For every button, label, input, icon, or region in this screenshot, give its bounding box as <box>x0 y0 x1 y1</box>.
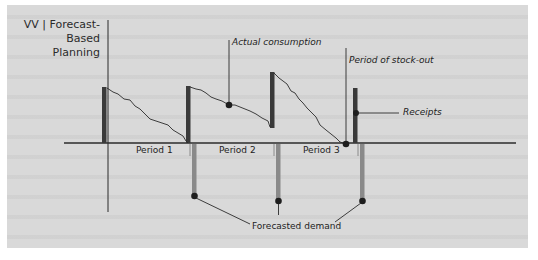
forecast-pointer-1 <box>196 198 250 224</box>
receipt-bar-3 <box>270 72 275 128</box>
receipt-bar-1 <box>102 87 107 143</box>
forecast-bar-2 <box>276 144 281 200</box>
stock-out-marker <box>343 141 350 148</box>
label-receipts: Receipts <box>403 107 442 117</box>
title-line-2: Planning <box>18 46 100 60</box>
diagram-title: VV | Forecast-Based Planning <box>18 18 100 60</box>
forecast-marker-2 <box>275 198 282 205</box>
consumption-marker <box>226 102 233 109</box>
label-period-3: Period 3 <box>303 145 340 155</box>
label-period-of-stock-out: Period of stock-out <box>349 55 434 65</box>
title-line-1: VV | Forecast-Based <box>18 18 100 46</box>
forecast-pointer-3 <box>335 203 361 222</box>
receipt-bar-2 <box>186 86 191 143</box>
consumption-curve-1 <box>107 88 188 143</box>
consumption-curve-3 <box>274 73 343 143</box>
forecast-bar-3 <box>360 144 365 200</box>
label-period-2: Period 2 <box>219 145 256 155</box>
label-period-1: Period 1 <box>136 145 173 155</box>
label-forecasted-demand: Forecasted demand <box>252 221 341 231</box>
label-actual-consumption: Actual consumption <box>232 37 322 47</box>
forecast-bar-1 <box>192 144 197 196</box>
